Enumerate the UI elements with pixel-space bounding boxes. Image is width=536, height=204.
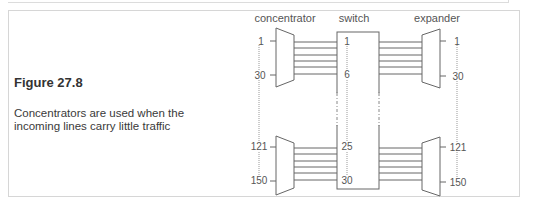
concentrator-bottom-links (294, 148, 337, 180)
switch-label-1: 1 (344, 36, 350, 47)
switch-label-25: 25 (341, 141, 353, 152)
header-switch: switch (339, 12, 370, 24)
switch-label-6: 6 (344, 69, 350, 80)
expander-top-links (379, 42, 422, 74)
concentrator-bottom (276, 136, 294, 195)
concentrator-label-121: 121 (251, 141, 268, 152)
expander-label-1: 1 (454, 36, 460, 47)
concentrator-top (276, 28, 294, 87)
concentrator-label-1: 1 (258, 36, 264, 47)
concentrator-top-links (294, 42, 337, 74)
switch-box (337, 32, 379, 189)
expander-label-30: 30 (452, 71, 464, 82)
header-concentrator: concentrator (254, 12, 315, 24)
concentrator-label-150: 150 (251, 175, 268, 186)
concentrator-label-30: 30 (254, 70, 266, 81)
header-expander: expander (414, 12, 460, 24)
expander-top (422, 29, 440, 88)
switch-label-30: 30 (341, 175, 353, 186)
expander-bottom-links (379, 148, 422, 180)
expander-label-121: 121 (450, 142, 467, 153)
expander-label-150: 150 (450, 177, 467, 188)
concentrator-switch-expander-diagram: concentrator switch expander (0, 0, 536, 204)
expander-bottom (422, 137, 440, 196)
